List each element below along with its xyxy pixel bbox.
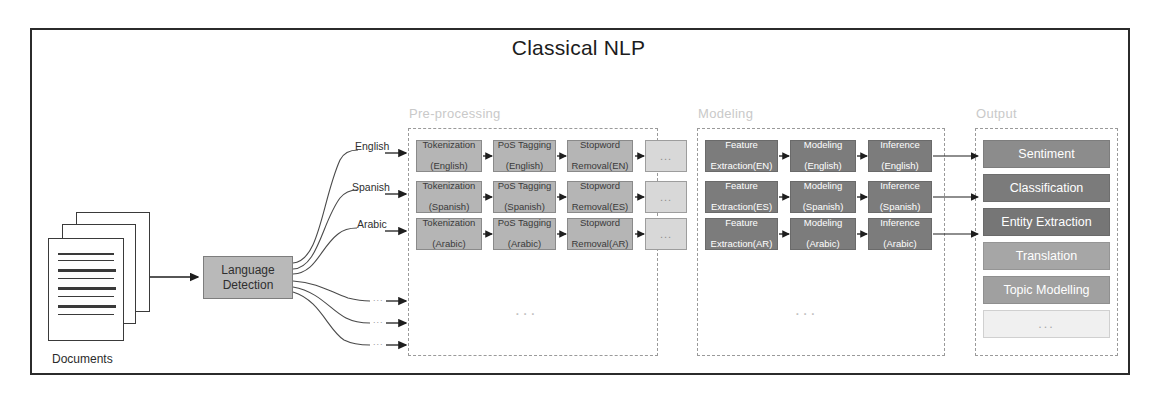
modeling-group-label: Modeling xyxy=(698,106,753,121)
step-line2: Removal(EN) xyxy=(568,161,632,172)
documents-stack-icon xyxy=(48,212,166,347)
language-detection-box[interactable]: Language Detection xyxy=(203,256,293,299)
language-detection-label-line1: Language xyxy=(221,263,274,277)
branch-label-arabic: Arabic xyxy=(357,218,387,230)
step-line1: ... xyxy=(646,228,686,241)
output-group-label: Output xyxy=(976,106,1017,121)
step-line1: Inference xyxy=(869,140,931,151)
step-line2: (English) xyxy=(494,161,555,172)
page-title: Classical NLP xyxy=(0,36,1157,60)
step-line1: Inference xyxy=(869,218,931,229)
preprocessing-step-tokenization-arabic[interactable]: Tokenization(Arabic) xyxy=(416,218,482,250)
step-line2: (English) xyxy=(791,161,855,172)
preprocessing-step-pos-tagging-english[interactable]: PoS Tagging(English) xyxy=(493,140,556,172)
output-item-classification[interactable]: Classification xyxy=(983,174,1110,202)
step-line1: Tokenization xyxy=(417,218,481,229)
step-line1: Stopword xyxy=(568,140,632,151)
step-line1: Modeling xyxy=(791,140,855,151)
step-line1: Modeling xyxy=(791,218,855,229)
preprocessing-step-stopword-removal-arabic[interactable]: StopwordRemoval(AR) xyxy=(567,218,633,250)
modeling-step-feature-extraction-english[interactable]: FeatureExtraction(EN) xyxy=(705,140,778,172)
step-line1: PoS Tagging xyxy=(494,218,555,229)
step-line1: Tokenization xyxy=(417,140,481,151)
step-line1: Tokenization xyxy=(417,181,481,192)
language-detection-label-line2: Detection xyxy=(223,278,274,292)
diagram-canvas: Classical NLP Documents Language Detecti… xyxy=(0,0,1157,397)
step-line1: ... xyxy=(646,150,686,163)
step-line2: (Spanish) xyxy=(494,202,555,213)
step-line2: (Arabic) xyxy=(494,239,555,250)
document-sheet-front xyxy=(48,238,124,341)
output-label: Sentiment xyxy=(984,147,1109,161)
branch-label-other-2: ... xyxy=(373,315,384,325)
preprocessing-continuation-ellipsis: ... xyxy=(515,300,538,320)
modeling-step-modeling-spanish[interactable]: Modeling(Spanish) xyxy=(790,181,856,213)
step-line1: ... xyxy=(646,191,686,204)
step-line1: PoS Tagging xyxy=(494,181,555,192)
documents-label: Documents xyxy=(52,352,113,366)
modeling-step-modeling-english[interactable]: Modeling(English) xyxy=(790,140,856,172)
branch-label-other-3: ... xyxy=(373,337,384,347)
step-line2: (English) xyxy=(417,161,481,172)
modeling-step-feature-extraction-spanish[interactable]: FeatureExtraction(ES) xyxy=(705,181,778,213)
output-item-sentiment[interactable]: Sentiment xyxy=(983,140,1110,168)
step-line1: Stopword xyxy=(568,218,632,229)
output-label: Translation xyxy=(984,249,1109,263)
step-line2: (Spanish) xyxy=(869,202,931,213)
preprocessing-step-more-spanish[interactable]: ... xyxy=(645,181,687,213)
step-line2: Removal(ES) xyxy=(568,202,632,213)
preprocessing-step-pos-tagging-spanish[interactable]: PoS Tagging(Spanish) xyxy=(493,181,556,213)
output-item-translation[interactable]: Translation xyxy=(983,242,1110,270)
preprocessing-step-stopword-removal-spanish[interactable]: StopwordRemoval(ES) xyxy=(567,181,633,213)
modeling-step-feature-extraction-arabic[interactable]: FeatureExtraction(AR) xyxy=(705,218,778,250)
output-item-entity-extraction[interactable]: Entity Extraction xyxy=(983,208,1110,236)
modeling-step-inference-spanish[interactable]: Inference(Spanish) xyxy=(868,181,932,213)
preprocessing-step-more-arabic[interactable]: ... xyxy=(645,218,687,250)
output-label: Entity Extraction xyxy=(984,215,1109,229)
preprocessing-step-tokenization-spanish[interactable]: Tokenization(Spanish) xyxy=(416,181,482,213)
output-label: Classification xyxy=(984,181,1109,195)
step-line1: Stopword xyxy=(568,181,632,192)
modeling-step-modeling-arabic[interactable]: Modeling(Arabic) xyxy=(790,218,856,250)
step-line2: (Arabic) xyxy=(417,239,481,250)
step-line2: Extraction(ES) xyxy=(706,202,777,213)
step-line2: (Arabic) xyxy=(791,239,855,250)
output-item-topic-modelling[interactable]: Topic Modelling xyxy=(983,276,1110,304)
branch-label-other-1: ... xyxy=(373,293,384,303)
preprocessing-step-pos-tagging-arabic[interactable]: PoS Tagging(Arabic) xyxy=(493,218,556,250)
step-line1: Feature xyxy=(706,218,777,229)
step-line1: PoS Tagging xyxy=(494,140,555,151)
preprocessing-step-stopword-removal-english[interactable]: StopwordRemoval(EN) xyxy=(567,140,633,172)
output-label: ... xyxy=(984,317,1109,331)
step-line2: (English) xyxy=(869,161,931,172)
step-line2: Extraction(EN) xyxy=(706,161,777,172)
preprocessing-group-label: Pre-processing xyxy=(409,106,501,121)
preprocessing-step-tokenization-english[interactable]: Tokenization(English) xyxy=(416,140,482,172)
step-line2: (Arabic) xyxy=(869,239,931,250)
branch-label-spanish: Spanish xyxy=(352,181,390,193)
output-item-more[interactable]: ... xyxy=(983,310,1110,338)
branch-label-english: English xyxy=(355,140,389,152)
modeling-continuation-ellipsis: ... xyxy=(795,300,818,320)
modeling-step-inference-english[interactable]: Inference(English) xyxy=(868,140,932,172)
step-line2: (Spanish) xyxy=(417,202,481,213)
step-line2: (Spanish) xyxy=(791,202,855,213)
step-line1: Feature xyxy=(706,181,777,192)
step-line2: Extraction(AR) xyxy=(706,239,777,250)
step-line1: Feature xyxy=(706,140,777,151)
step-line1: Modeling xyxy=(791,181,855,192)
preprocessing-step-more-english[interactable]: ... xyxy=(645,140,687,172)
step-line1: Inference xyxy=(869,181,931,192)
step-line2: Removal(AR) xyxy=(568,239,632,250)
output-label: Topic Modelling xyxy=(984,283,1109,297)
modeling-step-inference-arabic[interactable]: Inference(Arabic) xyxy=(868,218,932,250)
